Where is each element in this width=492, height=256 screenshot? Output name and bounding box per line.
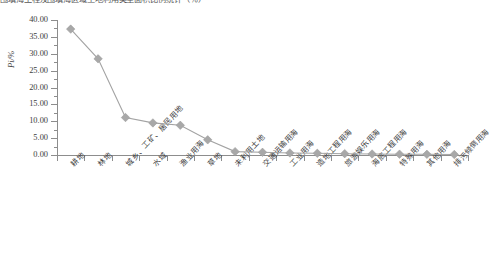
- y-tick-minor: [54, 147, 57, 148]
- y-tick-minor: [54, 62, 57, 63]
- y-tick-label: 5.00: [33, 132, 48, 143]
- data-point-1: [94, 55, 102, 63]
- y-tick-label: 40.00: [29, 14, 48, 25]
- y-tick-label: 15.00: [29, 98, 48, 109]
- y-axis-line: [57, 20, 58, 156]
- x-label-0: 耕地: [69, 150, 86, 168]
- y-tick-minor: [54, 45, 57, 46]
- y-tick-mark: [51, 138, 57, 139]
- y-tick-4: 20.00: [51, 88, 57, 89]
- y-tick-5: 15.00: [51, 104, 57, 105]
- y-tick-minor: [54, 28, 57, 29]
- y-tick-mark: [51, 104, 57, 105]
- data-point-4: [176, 121, 184, 129]
- y-tick-1: 35.00: [51, 37, 57, 38]
- data-point-0: [66, 25, 74, 33]
- data-point-2: [121, 113, 129, 121]
- figure-caption-text: 围填海工程及围填海区域土地利用类型面积比例统计（％）: [0, 0, 483, 5]
- y-tick-6: 10.00: [51, 121, 57, 122]
- y-tick-mark: [51, 121, 57, 122]
- y-tick-label: 0.00: [33, 149, 48, 160]
- y-tick-7: 5.00: [51, 138, 57, 139]
- x-label-14: 排污倾倒用海: [452, 127, 491, 168]
- y-tick-label: 20.00: [29, 82, 48, 93]
- x-label-13: 其他用海: [425, 139, 453, 169]
- y-tick-mark: [51, 37, 57, 38]
- y-tick-minor: [54, 96, 57, 97]
- y-tick-label: 35.00: [29, 31, 48, 42]
- x-label-8: 工业用海: [288, 139, 316, 169]
- y-tick-minor: [54, 130, 57, 131]
- y-tick-minor: [54, 113, 57, 114]
- y-axis-title: Pi/%: [6, 51, 16, 68]
- y-tick-mark: [51, 71, 57, 72]
- y-tick-label: 30.00: [29, 48, 48, 59]
- x-label-5: 草地: [206, 150, 223, 168]
- x-label-4: 渔业用海: [178, 139, 206, 169]
- y-tick-3: 25.00: [51, 71, 57, 72]
- y-tick-minor: [54, 79, 57, 80]
- x-label-12: 特殊用海: [398, 139, 426, 169]
- y-tick-mark: [51, 54, 57, 55]
- figure-caption: 围填海工程及围填海区域土地利用类型面积比例统计（％）: [0, 0, 483, 6]
- y-tick-mark: [51, 88, 57, 89]
- y-tick-0: 40.00: [51, 20, 57, 21]
- y-tick-mark: [51, 20, 57, 21]
- x-tick-0: [57, 156, 58, 161]
- y-tick-label: 10.00: [29, 115, 48, 126]
- y-tick-label: 25.00: [29, 65, 48, 76]
- y-tick-2: 30.00: [51, 54, 57, 55]
- x-label-3: 水域: [151, 150, 168, 168]
